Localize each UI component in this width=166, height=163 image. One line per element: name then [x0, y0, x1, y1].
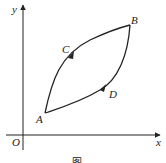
- label-y: y: [11, 3, 17, 15]
- arrow-at-d-icon: [100, 84, 106, 92]
- figure-caption: 图...: [72, 157, 92, 163]
- label-c: C: [62, 43, 70, 55]
- label-b: B: [131, 14, 138, 26]
- label-a: A: [35, 113, 43, 125]
- label-d: D: [108, 88, 117, 100]
- axes: [6, 5, 160, 150]
- curve-acb: [45, 25, 130, 113]
- label-origin: O: [12, 136, 20, 148]
- curve-bda: [45, 25, 130, 113]
- label-x: x: [155, 136, 161, 148]
- diagram-canvas: y x O A B C D 图...: [0, 0, 166, 163]
